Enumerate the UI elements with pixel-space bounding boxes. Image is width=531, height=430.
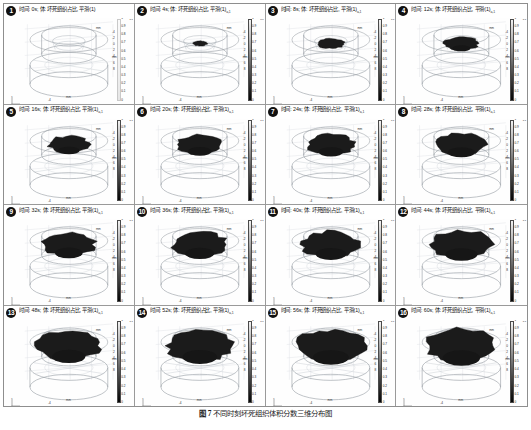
plot-panel[interactable]: 12时间: 44s; 体: 坏死组织占比, 平滑(1)a,1-4-202468m… (396, 205, 527, 306)
x-axis-tick-label: -4 (48, 200, 51, 203)
panel-title-text: 时间: 16s; 体: 坏死组织占比, 平滑(1) (19, 106, 98, 112)
panel-title: 时间: 52s; 体: 坏死组织占比, 平滑(1)a,1 (150, 307, 265, 317)
x-axis-tick-label: -4 (440, 200, 443, 203)
panel-number-badge: 13 (6, 308, 16, 318)
z-axis-tick-label: -4 (373, 232, 376, 235)
colorbar-tick-label: 0.9 (121, 227, 125, 230)
svg-text:z: z (403, 95, 405, 98)
z-axis-tick-label: 2 (375, 150, 377, 153)
colorbar-tick-label: 0.4 (515, 267, 519, 270)
colorbar-tick-label: 0.7 (383, 344, 387, 347)
colorbar-gradient-strip (378, 321, 382, 404)
panel-title-subscript: a,1 (360, 211, 364, 215)
colorbar-tick-label: 0.5 (515, 58, 519, 61)
plot-panel[interactable]: 6时间: 20s; 体: 坏死组织占比, 平滑(1)a,1-4-202468mm… (135, 105, 266, 206)
colorbar-tick-label: 0 (383, 199, 385, 202)
panel-title-text: 时间: 4s; 体: 坏死组织占比, 平滑(1) (150, 6, 226, 12)
z-axis-tick-label: 2 (506, 351, 508, 354)
svg-text:z: z (11, 195, 13, 198)
x-axis-tick-label: -4 (440, 300, 443, 303)
panel-title-text: 时间: 32s; 体: 坏死组织占比, 平滑(1) (19, 207, 98, 213)
colorbar-tick-label: 0.9 (252, 327, 256, 330)
plot-panel[interactable]: 9时间: 32s; 体: 坏死组织占比, 平滑(1)a,1-4-202468mm… (4, 205, 135, 306)
plot-panel[interactable]: 11时间: 40s; 体: 坏死组织占比, 平滑(1)a,1-4-202468m… (266, 205, 397, 306)
colorbar-tick-list: 10.90.80.70.60.50.40.30.20.10 (515, 220, 527, 302)
panel-header: 1时间: 0s; 体: 坏死组织占比, 平滑(1) (4, 4, 134, 18)
y-axis-unit-label: mm (227, 128, 232, 131)
z-axis-tick-label: 6 (506, 162, 508, 165)
panel-number-badge: 5 (6, 107, 16, 117)
colorbar-tick-label: 0.4 (515, 368, 519, 371)
colorbar-gradient-strip (117, 120, 121, 202)
colorbar-tick-label: 0.7 (383, 142, 387, 145)
colorbar: Ua,110.90.80.70.60.50.40.30.20.10 (378, 120, 394, 202)
plot-panel[interactable]: 2时间: 4s; 体: 坏死组织占比, 平滑(1)a,1-4-202468mmm… (135, 4, 266, 105)
x-axis-tick-label: -4 (310, 200, 313, 203)
svg-text:z: z (273, 95, 275, 98)
z-axis-tick-label: 6 (113, 62, 115, 65)
z-axis-tick-label: 2 (113, 351, 115, 354)
colorbar-tick-label: 0.5 (252, 360, 256, 363)
plot-panel[interactable]: 10时间: 36s; 体: 坏死组织占比, 平滑(1)a,1-4-202468m… (135, 205, 266, 306)
colorbar-tick-label: 0.3 (515, 377, 519, 380)
colorbar-tick-label: 0.2 (121, 385, 125, 388)
panel-title-subscript: a,1 (491, 211, 495, 215)
z-axis-tick-label: -4 (112, 232, 115, 235)
plot-panel[interactable]: 16时间: 60s; 体: 坏死组织占比, 平滑(1)a,1-4-202468m… (396, 306, 527, 407)
panel-title-text: 时间: 44s; 体: 坏死组织占比, 平滑(1) (411, 207, 490, 213)
x-axis-tick-label: -4 (440, 99, 443, 102)
panel-title: 时间: 60s; 体: 坏死组织占比, 平滑(1)a,1 (411, 307, 527, 317)
plot-panel[interactable]: 4时间: 12s; 体: 坏死组织占比, 平滑(1)a,1-4-202468mm… (396, 4, 527, 105)
plot-panel[interactable]: 5时间: 16s; 体: 坏死组织占比, 平滑(1)a,1-4-202468mm… (4, 105, 135, 206)
colorbar-tick-label: 0.2 (515, 284, 519, 287)
colorbar-tick-label: 0.1 (383, 393, 387, 396)
colorbar-tick-label: 0.6 (252, 50, 256, 53)
panel-title: 时间: 12s; 体: 坏死组织占比, 平滑(1)a,1 (411, 6, 527, 16)
colorbar-tick-label: 0.8 (121, 335, 125, 338)
colorbar: Ua,110.90.80.70.60.50.40.30.20.10 (248, 321, 264, 404)
x-axis-unit-label: mm (197, 297, 202, 300)
z-axis-tick-label: 6 (375, 162, 377, 165)
svg-text:z: z (273, 397, 275, 400)
x-axis-tick-label: -4 (310, 300, 313, 303)
colorbar-tick-label: 0 (515, 401, 517, 404)
z-axis-tick-label: 8 (375, 369, 377, 372)
z-axis-tick-label: 0 (375, 345, 377, 348)
plot-panel[interactable]: 7时间: 24s; 体: 坏死组织占比, 平滑(1)a,1-4-202468mm… (266, 105, 397, 206)
colorbar-tick-list: 10.90.80.70.60.50.40.30.20.10 (515, 120, 527, 202)
plot-panel[interactable]: 3时间: 8s; 体: 坏死组织占比, 平滑(1)a,1-4-202468mmm… (266, 4, 397, 105)
panel-title-text: 时间: 36s; 体: 坏死组织占比, 平滑(1) (150, 207, 229, 213)
plot-panel[interactable]: 15时间: 56s; 体: 坏死组织占比, 平滑(1)a,1-4-202468m… (266, 306, 397, 407)
colorbar-gradient-strip (248, 321, 252, 404)
z-axis-tick-label: 6 (506, 62, 508, 65)
colorbar-tick-label: 0.1 (515, 91, 519, 94)
z-axis-tick-label: -2 (505, 339, 508, 342)
plot-panel[interactable]: 14时间: 52s; 体: 坏死组织占比, 平滑(1)a,1-4-202468m… (135, 306, 266, 407)
colorbar-gradient-strip (248, 120, 252, 202)
orientation-triad-icon: zxy (399, 293, 415, 304)
panel-title: 时间: 4s; 体: 坏死组织占比, 平滑(1)a,1 (150, 6, 265, 16)
z-axis-tick-label: 2 (244, 150, 246, 153)
panel-number-badge: 8 (398, 107, 408, 117)
panel-header: 8时间: 28s; 体: 坏死组织占比, 平滑(1)a,1 (396, 105, 527, 119)
plot-panel[interactable]: 8时间: 28s; 体: 坏死组织占比, 平滑(1)a,1-4-202468mm… (396, 105, 527, 206)
z-axis-tick-label: 6 (244, 263, 246, 266)
colorbar-tick-label: 0.1 (121, 191, 125, 194)
colorbar-tick-list: 10.90.80.70.60.50.40.30.20.10 (383, 120, 395, 202)
colorbar-tick-label: 0.6 (383, 251, 387, 254)
colorbar-tick-label: 0.3 (383, 175, 387, 178)
z-axis-tick-label: -4 (505, 31, 508, 34)
colorbar-tick-label: 0.1 (121, 91, 125, 94)
colorbar-tick-label: 0.6 (252, 352, 256, 355)
colorbar-tick-label: 0.9 (515, 327, 519, 330)
x-axis-unit-label: mm (66, 297, 71, 300)
colorbar-tick-label: 0.7 (515, 142, 519, 145)
colorbar-tick-label: 0.6 (383, 352, 387, 355)
colorbar-tick-list: 10.90.80.70.60.50.40.30.20.10 (121, 120, 133, 202)
svg-text:x: x (20, 405, 22, 406)
plot-panel[interactable]: 13时间: 48s; 体: 坏死组织占比, 平滑(1)a,1-4-202468m… (4, 306, 135, 407)
y-axis-unit-label: mm (96, 128, 101, 131)
plot-panel[interactable]: 1时间: 0s; 体: 坏死组织占比, 平滑(1)-4-202468mmmmmm… (4, 4, 135, 105)
z-axis-tick-label: 2 (506, 150, 508, 153)
colorbar-gradient-strip (510, 220, 514, 302)
